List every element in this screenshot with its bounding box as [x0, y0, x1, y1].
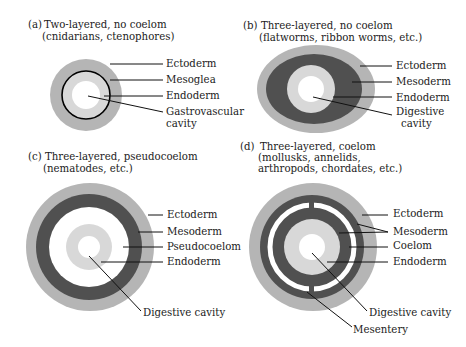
label-mesentery: Mesentery [353, 324, 408, 335]
label-mesoderm: Mesoderm [393, 226, 448, 237]
panel-b: (b) Three-layered, no coelom (flatworms,… [243, 20, 451, 133]
panel-a-title: Two-layered, no coelom [44, 19, 167, 30]
panel-d: (d) Three-layered, coelom (mollusks, ann… [240, 141, 451, 335]
label-ectoderm: Ectoderm [167, 209, 218, 220]
body-plan-diagram: (a) Two-layered, no coelom (cnidarians, … [0, 0, 466, 347]
panel-d-subtitle-1: (mollusks, annelids, [258, 152, 361, 163]
label-endoderm: Endoderm [167, 256, 221, 267]
label-digestive-cavity: Digestive cavity [143, 307, 225, 318]
panel-c-letter: (c) [28, 151, 42, 162]
label-ectoderm: Ectoderm [166, 58, 217, 69]
panel-b-letter: (b) [243, 20, 257, 31]
label-gastrovascular: Gastrovascular [166, 106, 244, 117]
label-endoderm: Endoderm [166, 90, 220, 101]
label-mesoderm: Mesoderm [396, 76, 451, 87]
panel-c-title: Three-layered, pseudocoelom [45, 151, 198, 162]
label-ectoderm: Ectoderm [393, 208, 444, 219]
gastrovascular-cavity [72, 81, 100, 109]
panel-b-cross-section [257, 45, 375, 133]
panel-a-subtitle: (cnidarians, ctenophores) [42, 31, 174, 42]
label-mesoderm: Mesoderm [167, 226, 222, 237]
panel-d-letter: (d) [240, 141, 254, 152]
label-endoderm: Endoderm [396, 92, 450, 103]
digestive-cavity [78, 236, 100, 258]
mesentery-ventral [309, 284, 314, 292]
panel-a: (a) Two-layered, no coelom (cnidarians, … [28, 19, 244, 131]
label-coelom: Coelom [393, 240, 432, 251]
label-cavity: cavity [401, 118, 432, 129]
panel-d-subtitle-2: arthropods, chordates, etc.) [258, 163, 402, 174]
digestive-cavity [299, 234, 325, 260]
panel-a-letter: (a) [28, 19, 42, 30]
digestive-cavity [298, 76, 324, 102]
mesentery-dorsal [309, 202, 314, 210]
panel-d-title: Three-layered, coelom [260, 141, 376, 152]
label-endoderm: Endoderm [393, 256, 447, 267]
label-pseudocoelom: Pseudocoelom [167, 241, 241, 252]
panel-b-title: Three-layered, no coelom [261, 20, 393, 31]
label-digestive-cavity: Digestive cavity [369, 307, 451, 318]
panel-c: (c) Three-layered, pseudocoelom (nematod… [26, 151, 241, 318]
label-digestive: Digestive [396, 106, 444, 117]
panel-a-cross-section [50, 59, 122, 131]
label-cavity: cavity [166, 118, 197, 129]
label-ectoderm: Ectoderm [396, 60, 447, 71]
panel-c-subtitle: (nematodes, etc.) [43, 163, 133, 174]
label-mesoglea: Mesoglea [166, 74, 216, 85]
panel-b-subtitle: (flatworms, ribbon worms, etc.) [259, 32, 422, 43]
